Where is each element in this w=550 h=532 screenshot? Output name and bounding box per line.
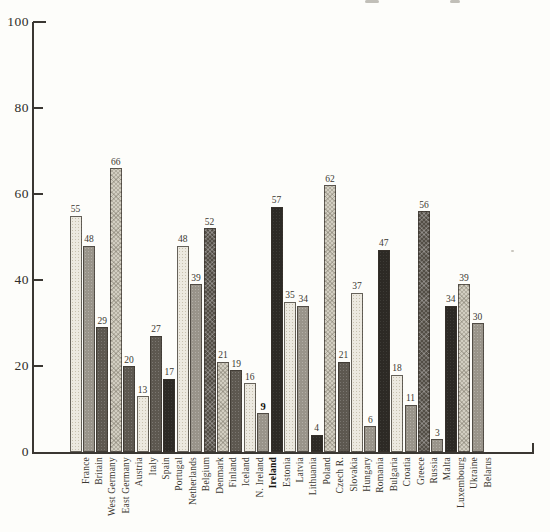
bar-value-spain: 27 xyxy=(143,324,169,334)
bar-ukraine xyxy=(458,284,470,452)
category-label-lithuania: Lithuania xyxy=(308,457,319,495)
y-tick-80 xyxy=(33,107,43,109)
bar-value-italy: 13 xyxy=(130,385,156,395)
bar-hungary xyxy=(351,293,363,452)
category-label-slovakia: Slovakia xyxy=(349,457,360,492)
category-label-italy: Italy xyxy=(148,457,159,475)
bar-value-netherlands: 48 xyxy=(170,234,196,244)
category-label-russia: Russia xyxy=(429,457,440,484)
category-label-ukraine: Ukraine xyxy=(469,457,480,489)
bar-value-ukraine: 39 xyxy=(451,273,477,283)
bar-value-austria: 20 xyxy=(116,355,142,365)
bar-denmark xyxy=(204,228,216,452)
category-label-ireland: Ireland xyxy=(268,457,279,488)
y-tick-40 xyxy=(33,279,43,281)
bar-malta xyxy=(431,439,443,452)
bar-west-germany xyxy=(96,327,108,452)
bar-value-n-ireland: 16 xyxy=(237,372,263,382)
category-label-belgium: Belgium xyxy=(201,457,212,491)
bar-latvia xyxy=(284,302,296,453)
bar-ireland xyxy=(257,413,269,452)
bar-value-croatia: 18 xyxy=(384,363,410,373)
bar-value-estonia: 57 xyxy=(264,195,290,205)
bar-belgium xyxy=(190,284,202,452)
bar-finland xyxy=(217,362,229,452)
category-label-malta: Malta xyxy=(442,457,453,480)
category-label-romania: Romania xyxy=(375,457,386,493)
y-tick-label-0: 0 xyxy=(0,445,29,459)
bar-value-russia: 56 xyxy=(411,200,437,210)
category-label-belarus: Belarus xyxy=(483,457,494,487)
category-label-bulgaria: Bulgaria xyxy=(389,457,400,491)
y-tick-label-100: 100 xyxy=(0,15,29,29)
bar-austria xyxy=(123,366,135,452)
category-label-netherlands: Netherlands xyxy=(188,457,199,505)
bar-value-slovakia: 21 xyxy=(331,350,357,360)
bar-value-lithuania: 34 xyxy=(290,294,316,304)
bar-poland xyxy=(311,435,323,452)
bar-value-luxembourg: 34 xyxy=(438,294,464,304)
bar-value-belgium: 39 xyxy=(183,273,209,283)
bar-portugal xyxy=(163,379,175,452)
bar-russia xyxy=(418,211,430,452)
category-label-iceland: Iceland xyxy=(241,457,252,486)
bar-italy xyxy=(137,396,149,452)
bar-iceland xyxy=(230,370,242,452)
x-axis-end-tick xyxy=(532,443,534,453)
category-label-spain: Spain xyxy=(161,457,172,480)
bar-n-ireland xyxy=(244,383,256,452)
category-label-n-ireland: N. Ireland xyxy=(255,457,266,498)
bar-value-czech-r: 62 xyxy=(317,174,343,184)
bar-britain xyxy=(83,246,95,452)
bar-value-denmark: 52 xyxy=(197,217,223,227)
bar-czech-r xyxy=(324,185,336,452)
y-tick-label-20: 20 xyxy=(0,359,29,373)
bar-value-portugal: 17 xyxy=(156,367,182,377)
y-tick-label-80: 80 xyxy=(0,101,29,115)
bar-value-malta: 3 xyxy=(424,428,450,438)
bar-value-bulgaria: 47 xyxy=(371,238,397,248)
category-label-hungary: Hungary xyxy=(362,457,373,492)
bar-france xyxy=(70,216,82,453)
bar-value-poland: 4 xyxy=(304,423,330,433)
bar-value-iceland: 19 xyxy=(223,359,249,369)
category-label-east-germany: East Germany xyxy=(121,457,132,513)
category-label-austria: Austria xyxy=(134,457,145,486)
category-label-poland: Poland xyxy=(322,457,333,485)
category-label-estonia: Estonia xyxy=(282,457,293,487)
bar-value-greece: 11 xyxy=(398,393,424,403)
category-label-latvia: Latvia xyxy=(295,457,306,482)
bar-romania xyxy=(364,426,376,452)
category-label-finland: Finland xyxy=(228,457,239,487)
bar-croatia xyxy=(391,375,403,452)
category-label-croatia: Croatia xyxy=(402,457,413,486)
category-label-denmark: Denmark xyxy=(215,457,226,494)
category-label-luxembourg: Luxembourg xyxy=(456,457,467,508)
y-tick-60 xyxy=(33,193,43,195)
bar-value-france: 55 xyxy=(63,204,89,214)
bar-slovakia xyxy=(338,362,350,452)
bar-value-ireland: 9 xyxy=(250,402,276,412)
bar-value-romania: 6 xyxy=(357,415,383,425)
y-tick-100 xyxy=(33,21,46,23)
y-axis-line xyxy=(32,22,34,453)
category-label-greece: Greece xyxy=(416,457,427,485)
bar-greece xyxy=(405,405,417,452)
y-tick-label-60: 60 xyxy=(0,187,29,201)
x-axis-line xyxy=(32,452,534,454)
category-label-france: France xyxy=(81,457,92,484)
bar-belarus xyxy=(472,323,484,452)
bar-east-germany xyxy=(110,168,122,452)
cropped-title-fragment xyxy=(365,0,379,3)
bar-estonia xyxy=(271,207,283,452)
bar-value-hungary: 37 xyxy=(344,281,370,291)
y-tick-20 xyxy=(33,365,43,367)
bar-value-east-germany: 66 xyxy=(103,157,129,167)
bar-value-west-germany: 29 xyxy=(89,316,115,326)
bar-value-belarus: 30 xyxy=(465,312,491,322)
cropped-title-fragment xyxy=(450,0,460,3)
bar-chart-figure: 020406080100 554829662013271748395221191… xyxy=(0,0,550,532)
bar-value-britain: 48 xyxy=(76,234,102,244)
category-label-britain: Britain xyxy=(94,457,105,485)
category-label-czech-r: Czech R. xyxy=(335,457,346,493)
